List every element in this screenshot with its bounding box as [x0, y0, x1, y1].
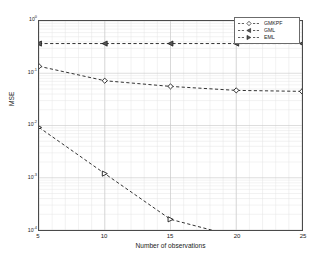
y-tick-label: 10-3 — [11, 175, 37, 180]
y-tick-label: 10-2 — [11, 122, 37, 127]
plot-area — [38, 20, 303, 231]
x-tick-label: 15 — [158, 233, 182, 239]
legend-sample-gmkpf — [237, 20, 263, 27]
y-axis-title: MSE — [9, 92, 16, 106]
legend-item-gml[interactable]: GML — [237, 27, 296, 34]
y-tick-label: 100 — [11, 17, 37, 22]
x-tick-label: 20 — [225, 233, 249, 239]
legend: GMKPF GML EML — [234, 17, 300, 44]
figure: 100 10-1 10-2 10-3 10-4 5 10 15 20 25 Nu… — [0, 0, 322, 262]
x-axis-title: Number of observations — [38, 243, 303, 250]
legend-sample-gml — [237, 27, 263, 34]
legend-label-gmkpf: GMKPF — [263, 21, 282, 26]
data-series-layer — [39, 21, 302, 230]
legend-item-eml[interactable]: EML — [237, 34, 296, 41]
y-tick-label: 10-1 — [11, 70, 37, 75]
legend-label-gml: GML — [263, 28, 275, 33]
legend-sample-eml — [237, 34, 263, 41]
x-tick-label: 10 — [92, 233, 116, 239]
legend-label-eml: EML — [263, 35, 275, 40]
x-tick-label: 25 — [291, 233, 315, 239]
legend-item-gmkpf[interactable]: GMKPF — [237, 20, 296, 27]
x-tick-label: 5 — [26, 233, 50, 239]
